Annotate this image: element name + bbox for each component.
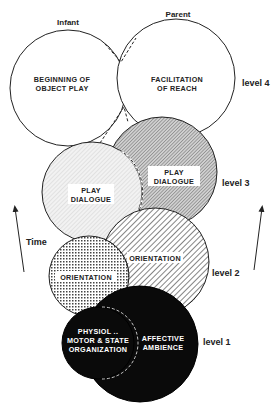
infant-label: Infant [57,18,79,27]
time-label: Time [26,237,47,247]
level3-side-label: level 3 [222,178,250,188]
level3-infant-text-1: PLAY [81,186,101,195]
development-levels-diagram: Infant Parent BEGINNING OF OBJECT PLAY F… [0,0,277,409]
level2-side-label: level 2 [212,268,240,278]
right-time-arrow-icon [254,208,262,270]
level4-infant-text-2: OBJECT PLAY [36,84,89,93]
level4-side-label: level 4 [242,78,270,88]
level1-parent-text-1: AFFECTIVE [142,334,185,343]
level1-infant-text-3: ORGANIZATION [69,345,128,354]
level1-infant-text-2: MOTOR & STATE [67,336,129,345]
level4-parent-text-2: OF REACH [157,84,197,93]
parent-label: Parent [166,10,191,19]
level4-parent-text-1: FACILITATION [151,75,203,84]
level4-infant-text-1: BEGINNING OF [34,75,91,84]
level2-parent-text: ORIENTATION [129,254,181,263]
level1-parent-text-2: AMBIENCE [143,343,184,352]
level3-parent-text-2: DIALOGUE [154,177,194,186]
level3-parent-text-1: PLAY [164,168,184,177]
level3-infant-text-2: DIALOGUE [71,195,111,204]
level1-infant-text-1: PHYSIOL .. [78,327,118,336]
level2-infant-text: ORIENTATION [60,273,112,282]
level1-side-label: level 1 [203,337,231,347]
left-time-arrow-icon [15,208,24,272]
